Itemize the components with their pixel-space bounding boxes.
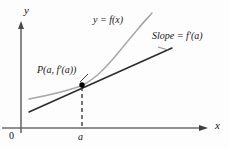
x-tick-label-a: a bbox=[78, 132, 83, 142]
tangent-line bbox=[29, 48, 172, 112]
x-axis-label: x bbox=[215, 120, 220, 131]
slope-label-leader bbox=[158, 47, 168, 50]
point-p-label: P(a, f′(a)) bbox=[37, 65, 76, 75]
tangent-line-figure: y x 0 a y = f(x) Slope = f′(a) P(a, f′(a… bbox=[0, 0, 229, 148]
curve-label-leader bbox=[139, 15, 150, 27]
function-curve bbox=[29, 13, 152, 99]
y-axis-label: y bbox=[24, 5, 29, 16]
curve-equation-label: y = f(x) bbox=[93, 15, 123, 25]
point-of-tangency-marker bbox=[79, 82, 84, 87]
point-label-leader bbox=[80, 74, 88, 82]
origin-label: 0 bbox=[9, 131, 14, 141]
x-axis-arrowhead bbox=[199, 125, 208, 131]
slope-annotation-label: Slope = f′(a) bbox=[152, 31, 203, 41]
y-axis-arrowhead bbox=[18, 21, 24, 29]
